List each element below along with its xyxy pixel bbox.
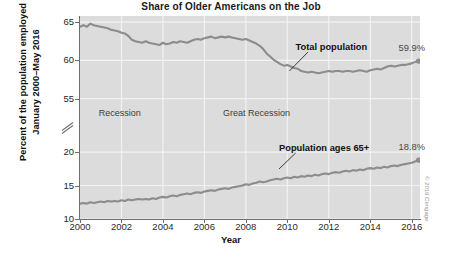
x-tick-mark-2006 xyxy=(204,219,205,223)
x-tick-mark-2014 xyxy=(370,219,371,223)
chart-title: Share of Older Americans on the Job xyxy=(0,1,462,12)
x-tick-mark-2012 xyxy=(329,219,330,223)
annotation-population-ages-65: Population ages 65+ xyxy=(279,143,369,153)
y-tick-mark-60 xyxy=(75,60,79,61)
series-endpoint-marker xyxy=(416,58,420,63)
series-line xyxy=(80,160,419,204)
y-tick-mark-20 xyxy=(75,152,79,153)
y-tick-mark-65 xyxy=(75,22,79,23)
endpoint-label-population-65-plus: 18.8% xyxy=(399,142,425,152)
y-tick-label-60: 60 xyxy=(50,54,74,65)
x-axis-label: Year xyxy=(0,234,462,245)
axis-break-icon xyxy=(60,118,78,136)
x-tick-mark-2010 xyxy=(287,219,288,223)
x-tick-mark-2008 xyxy=(246,219,247,223)
y-axis-label-line1: Percent of the population employed xyxy=(17,0,30,175)
y-axis-label-line2: January 2000–May 2016 xyxy=(30,0,43,175)
y-tick-mark-55 xyxy=(75,99,79,100)
y-tick-mark-15 xyxy=(75,186,79,187)
endpoint-label-total-population: 59.9% xyxy=(399,43,425,53)
copyright-credit: © 2019 Cengage xyxy=(418,176,430,240)
y-axis-label: Percent of the population employed Janua… xyxy=(17,0,45,175)
y-tick-label-65: 65 xyxy=(50,16,74,27)
annotation-great-recession: Great Recession xyxy=(223,108,290,118)
y-tick-mark-10 xyxy=(75,219,79,220)
y-tick-label-15: 15 xyxy=(50,180,74,191)
x-tick-mark-2004 xyxy=(163,219,164,223)
y-tick-label-20: 20 xyxy=(50,146,74,157)
chart-figure: Share of Older Americans on the Job Perc… xyxy=(0,0,462,257)
series-line xyxy=(80,24,419,74)
annotation-total-population: Total population xyxy=(296,42,368,52)
y-axis-line xyxy=(79,16,80,219)
y-tick-label-55: 55 xyxy=(50,93,74,104)
x-tick-mark-2000 xyxy=(80,219,81,223)
x-tick-mark-2002 xyxy=(121,219,122,223)
x-tick-mark-2016 xyxy=(412,219,413,223)
annotation-recession: Recession xyxy=(99,108,141,118)
